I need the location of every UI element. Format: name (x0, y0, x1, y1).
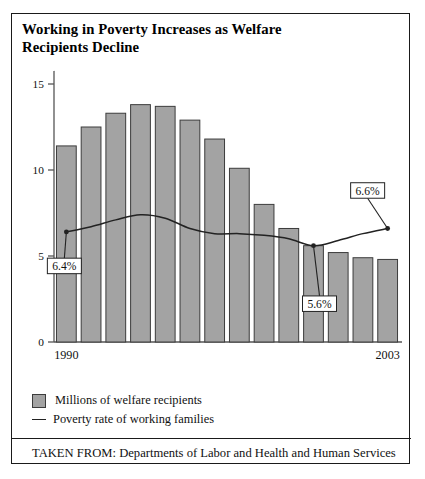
legend-line-icon (32, 419, 46, 420)
source-note: TAKEN FROM: Departments of Labor and Hea… (32, 446, 402, 461)
figure-frame: Working in Poverty Increases as Welfare … (11, 13, 410, 464)
footer-divider (12, 438, 411, 439)
bar (229, 168, 249, 342)
y-axis-tick-label: 10 (33, 164, 45, 176)
bar (279, 228, 299, 342)
bar (304, 246, 324, 342)
bar (254, 204, 274, 342)
bar (378, 259, 398, 342)
legend-item-line: Poverty rate of working families (32, 410, 392, 429)
callout-label: 5.6% (307, 298, 331, 311)
y-axis-tick-label: 0 (38, 336, 44, 348)
x-axis-tick-label: 1990 (54, 348, 78, 362)
bar (155, 106, 175, 342)
callout-label: 6.4% (52, 260, 76, 273)
bar (106, 113, 126, 342)
x-axis-tick-label: 2003 (375, 348, 399, 362)
bar-series (56, 105, 397, 342)
y-axis-tick-label: 5 (38, 250, 44, 262)
legend-swatch-icon (32, 394, 46, 408)
bar (56, 146, 76, 342)
bar (205, 139, 225, 342)
bar (353, 258, 373, 342)
callout-label: 6.6% (356, 185, 380, 198)
bar (131, 105, 151, 342)
bar (81, 127, 101, 342)
chart-legend: Millions of welfare recipients Poverty r… (32, 391, 392, 429)
legend-label-line: Poverty rate of working families (53, 412, 214, 427)
y-axis-tick-label: 15 (33, 78, 45, 90)
x-axis-tick-labels: 19902003 (54, 348, 400, 362)
legend-label-bars: Millions of welfare recipients (55, 393, 202, 408)
legend-item-bars: Millions of welfare recipients (32, 391, 392, 410)
callout-leader-line (368, 198, 388, 228)
